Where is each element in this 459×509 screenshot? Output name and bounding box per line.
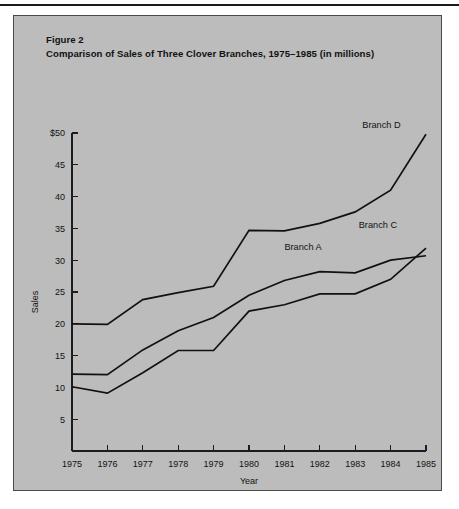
y-tick-label: 15 (55, 351, 65, 361)
series-lines (72, 134, 426, 393)
y-axis-title: Sales (30, 290, 40, 313)
y-tick-label: 45 (55, 160, 65, 170)
x-tick-label: 1981 (274, 459, 294, 469)
x-tick-label: 1977 (133, 459, 153, 469)
series-label-branch-c: Branch C (359, 220, 398, 230)
x-tick-label: 1978 (168, 459, 188, 469)
series-labels: Branch DBranch ABranch C (284, 120, 401, 252)
x-tick-label: 1980 (239, 459, 259, 469)
x-axis-title: Year (240, 476, 258, 486)
y-tick-label: 30 (55, 256, 65, 266)
line-chart: 51015202530354045$50 1975197619771978197… (14, 16, 443, 492)
series-label-branch-d: Branch D (362, 120, 401, 130)
x-axis: 1975197619771978197919801981198219831984… (62, 445, 436, 469)
y-tick-label: $50 (50, 128, 65, 138)
x-tick-label: 1985 (416, 459, 436, 469)
series-line-branch-c (72, 248, 426, 393)
x-tick-label: 1976 (97, 459, 117, 469)
x-tick-label: 1979 (204, 459, 224, 469)
y-tick-label: 20 (55, 319, 65, 329)
x-tick-label: 1982 (310, 459, 330, 469)
page-top-rule (0, 4, 459, 6)
series-label-branch-a: Branch A (284, 242, 322, 252)
x-tick-label: 1984 (381, 459, 401, 469)
y-tick-label: 25 (55, 287, 65, 297)
x-tick-label: 1983 (345, 459, 365, 469)
figure-panel: Figure 2 Comparison of Sales of Three Cl… (13, 15, 442, 491)
chart-canvas: 51015202530354045$50 1975197619771978197… (14, 16, 443, 492)
x-tick-label: 1975 (62, 459, 82, 469)
series-line-branch-a (72, 256, 426, 375)
y-axis: 51015202530354045$50 (50, 128, 78, 451)
y-tick-label: 10 (55, 383, 65, 393)
y-tick-label: 5 (60, 415, 65, 425)
y-tick-label: 40 (55, 192, 65, 202)
y-tick-label: 35 (55, 224, 65, 234)
